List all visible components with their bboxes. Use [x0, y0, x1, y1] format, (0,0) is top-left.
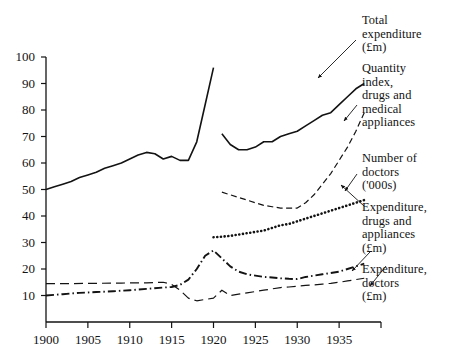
x-tick-label: 1925: [232, 332, 278, 348]
series-line-0: [46, 68, 214, 190]
y-tick-label: 100: [5, 49, 35, 65]
leader-quantity-index: [344, 105, 357, 121]
annotation-number-of-doctors: Number of doctors ('000s): [362, 152, 454, 193]
x-tick-label: 1935: [316, 332, 362, 348]
y-tick-label: 60: [5, 155, 35, 171]
y-tick-label: 90: [5, 76, 35, 92]
annotation-total-expenditure: Total expenditure (£m): [362, 14, 454, 55]
annotation-quantity-index: Quantity index, drugs and medical applia…: [362, 62, 454, 130]
series-line-1: [222, 84, 364, 150]
annotation-expenditure-doctors: Expenditure, doctors (£m): [362, 263, 454, 304]
y-tick-label: 10: [5, 288, 35, 304]
leader-total-expenditure: [318, 40, 356, 78]
y-tick-label: 80: [5, 102, 35, 118]
y-tick-label: 70: [5, 129, 35, 145]
series-line-3: [214, 200, 365, 237]
axes: [41, 57, 381, 328]
series-line-5: [46, 278, 364, 301]
leader-number-doctors: [345, 174, 357, 191]
y-tick-label: 50: [5, 182, 35, 198]
x-tick-label: 1930: [274, 332, 320, 348]
y-tick-label: 40: [5, 208, 35, 224]
series-line-4: [46, 250, 364, 295]
chart-figure: Total expenditure (£m) Quantity index, d…: [0, 0, 454, 361]
x-axis-ticks: [46, 322, 381, 328]
x-tick-label: 1900: [23, 332, 69, 348]
x-tick-label: 1915: [149, 332, 195, 348]
y-tick-label: 30: [5, 235, 35, 251]
series-line-2: [222, 113, 364, 208]
x-tick-label: 1910: [107, 332, 153, 348]
data-series-group: [46, 68, 364, 301]
annotation-expenditure-drugs: Expenditure, drugs and appliances (£m): [362, 201, 454, 255]
x-tick-label: 1905: [65, 332, 111, 348]
y-tick-label: 20: [5, 261, 35, 277]
x-tick-label: 1920: [191, 332, 237, 348]
y-axis-ticks: [41, 57, 46, 296]
